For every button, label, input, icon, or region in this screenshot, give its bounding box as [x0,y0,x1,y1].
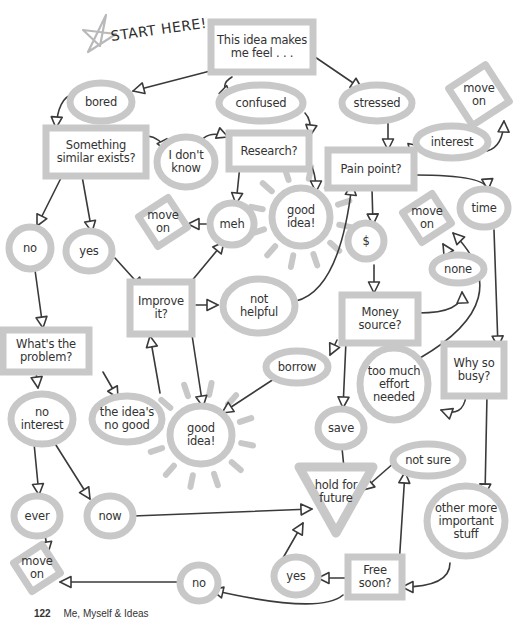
node-label-problem: What's the problem? [16,338,76,364]
arrow-37 [480,395,491,495]
arrow-16 [367,189,378,225]
node-label-now: now [98,510,121,523]
node-label-yes2: yes [286,570,305,583]
arrow-40 [133,504,312,516]
node-label-borrow: borrow [278,361,317,374]
node-label-dontknow: I don't know [169,149,204,175]
node-label-meh: meh [220,218,245,231]
node-label-nothelpful: not helpful [240,293,278,319]
arrow-18 [190,242,224,283]
node-label-research: Research? [240,145,297,158]
node-label-start: This idea makes me feel . . . [217,34,307,60]
node-label-moveon4: move on [21,555,52,581]
node-label-save: save [328,422,354,435]
node-label-confused: confused [236,97,287,110]
arrow-12 [82,176,95,232]
node-label-toomuch: too much effort needed [368,365,421,404]
arrow-21 [369,265,380,293]
arrow-26 [35,270,47,328]
node-label-no2: no [192,577,206,590]
node-label-nointerest: no interest [21,406,64,432]
node-label-goodidea2: good idea! [187,422,215,448]
arrow-29 [330,340,340,355]
arrow-35 [32,443,43,495]
arrow-19 [196,300,218,311]
arrow-7 [383,123,394,150]
arrow-46 [60,577,181,588]
arrow-22 [418,292,468,313]
node-label-moveon3: move on [411,205,442,231]
node-label-ever: ever [25,510,50,523]
book-title: Me, Myself & Ideas [63,608,148,619]
arrow-27 [146,336,160,393]
node-label-bored: bored [85,96,117,109]
page-number: 122 [34,608,51,619]
arrow-36 [54,442,90,499]
node-label-goodidea1: good idea! [287,204,315,230]
node-label-stressed: stressed [354,97,401,110]
node-label-painpoint: Pain point? [341,163,402,176]
arrow-0 [133,70,214,94]
node-label-notsure: not sure [405,454,451,467]
page-footer: 122 Me, Myself & Ideas [34,608,149,619]
node-label-whybusy: Why so busy? [454,357,495,383]
node-label-moveon1: move on [463,82,494,108]
arrow-2 [315,57,362,89]
node-label-money: Money source? [359,306,402,332]
arrow-44 [399,472,410,566]
node-label-freesoon: Free soon? [359,564,391,590]
node-label-interest: interest [431,136,474,149]
arrow-45 [402,563,450,593]
node-label-holdfuture: hold for future [315,479,358,505]
node-label-otherstuff: other more important stuff [435,502,497,541]
arrow-25 [492,230,503,347]
node-label-dollar: $ [362,235,369,248]
arrow-30 [222,377,277,413]
node-label-ideanogood: the idea's no good [100,406,154,432]
arrow-42 [283,523,303,558]
node-label-time: time [471,202,496,215]
arrow-28 [192,335,207,407]
node-label-none: none [444,263,472,276]
node-label-improve: Improve it? [138,295,184,321]
arrow-11 [37,176,62,226]
node-label-no1: no [23,242,37,255]
node-label-moveon2: move on [147,209,178,235]
node-label-similar: Something similar exists? [57,139,136,165]
arrow-43 [318,573,347,584]
node-label-yes1: yes [79,245,98,258]
arrow-31 [338,341,349,408]
